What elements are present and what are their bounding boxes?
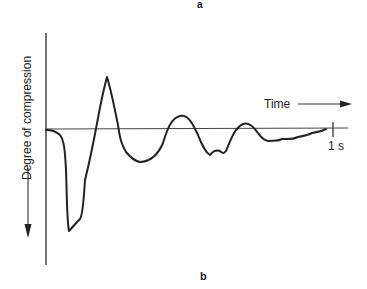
panel-label-b: b [200, 270, 207, 282]
x-tick-label: 1 s [328, 139, 344, 153]
x-axis-label: Time [264, 97, 290, 111]
figure: a Time 1 s Degree of compression b [0, 0, 367, 289]
time-arrow-icon [298, 101, 352, 108]
y-axis-label: Degree of compression [20, 56, 34, 180]
chart-canvas [0, 0, 367, 289]
x-axis-baseline [46, 128, 348, 129]
